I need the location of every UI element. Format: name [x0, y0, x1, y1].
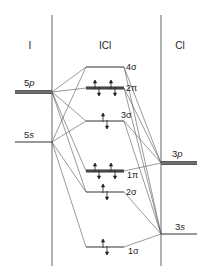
svg-text:2σ: 2σ	[126, 187, 137, 197]
level-i-5p: 5p	[15, 77, 52, 94]
svg-text:3s: 3s	[175, 221, 185, 232]
mo-4sigma: 4σ	[86, 62, 137, 72]
svg-text:2π: 2π	[126, 83, 137, 93]
svg-text:1π: 1π	[127, 170, 138, 180]
svg-text:1σ: 1σ	[128, 246, 139, 256]
mo-diagram: I ICl Cl 5p 5s	[0, 0, 209, 279]
column-header-cl: Cl	[175, 40, 184, 51]
level-cl-3p: 3p	[161, 148, 197, 165]
mo-1pi: 1π	[86, 163, 138, 180]
svg-text:5s: 5s	[24, 129, 34, 140]
level-i-5s: 5s	[15, 129, 52, 142]
svg-text:4σ: 4σ	[126, 62, 137, 72]
svg-text:5p: 5p	[24, 77, 35, 88]
correlation-lines	[52, 67, 161, 247]
mo-3sigma: 3σ	[86, 110, 132, 129]
mo-2pi: 2π	[86, 80, 137, 96]
mo-1sigma: 1σ	[86, 239, 139, 256]
level-cl-3s: 3s	[161, 221, 197, 234]
column-header-i: I	[29, 40, 32, 51]
column-header-icl: ICl	[99, 40, 111, 51]
mo-2sigma: 2σ	[86, 184, 137, 200]
svg-text:3σ: 3σ	[121, 110, 132, 120]
svg-text:3p: 3p	[172, 148, 183, 159]
